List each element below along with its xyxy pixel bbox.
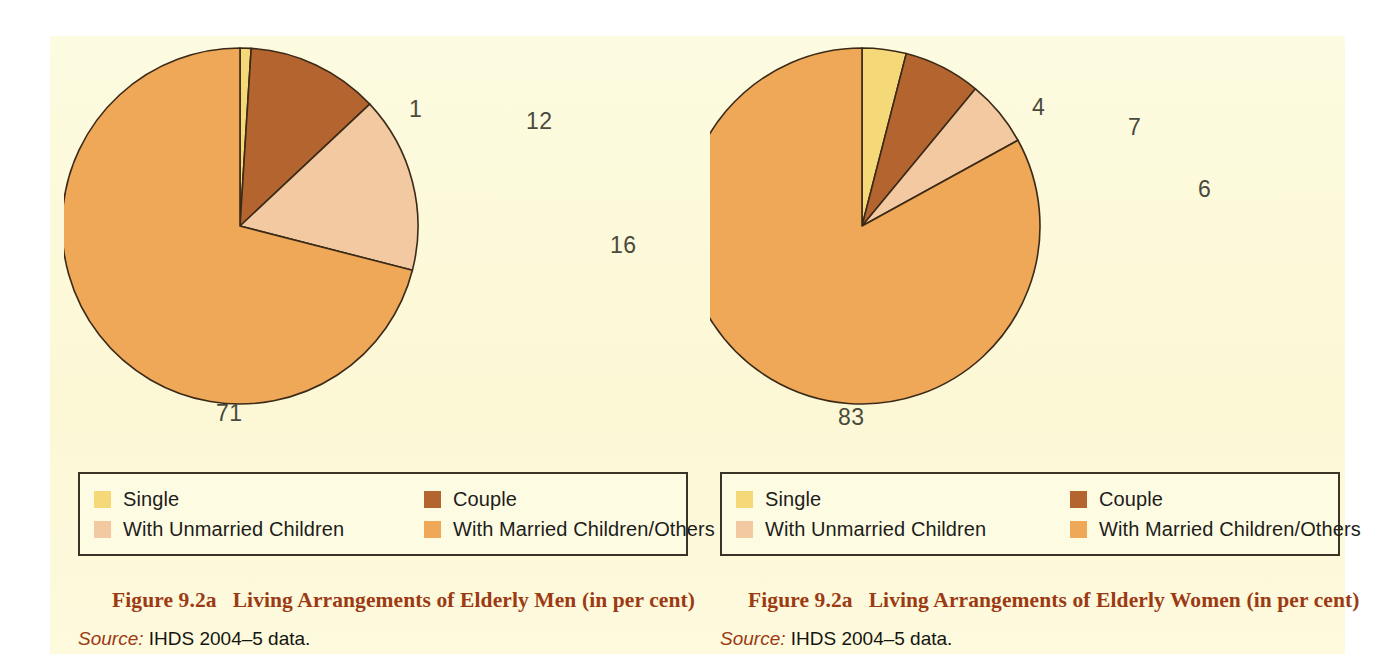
source-label-men: Source:: [78, 628, 143, 649]
legend-swatch-with-married-children-others-icon: [1070, 521, 1087, 538]
legend-label-with-married-children-others: With Married Children/Others: [453, 518, 715, 541]
pie-chart-women: 4 7 6 83: [710, 36, 1340, 456]
legend-label-single: Single: [765, 488, 821, 511]
figure-elderly-men: 1 12 16 71 Single Couple With Unmarried …: [64, 36, 694, 654]
legend-swatch-with-unmarried-children-icon: [736, 521, 753, 538]
figure-page-panel: 1 12 16 71 Single Couple With Unmarried …: [50, 36, 1345, 654]
pie-slice-label-married-children-others: 83: [838, 404, 865, 431]
source-text-men: IHDS 2004–5 data.: [149, 628, 311, 649]
legend-item-with-married-children-others[interactable]: With Married Children/Others: [424, 518, 715, 541]
legend-item-with-married-children-others[interactable]: With Married Children/Others: [1070, 518, 1361, 541]
figure-caption-title-men: Living Arrangements of Elderly Men (in p…: [233, 588, 695, 612]
legend-women: Single Couple With Unmarried Children Wi…: [720, 472, 1340, 556]
figure-caption-women: Figure 9.2aLiving Arrangements of Elderl…: [748, 588, 1360, 613]
pie-slice-label-married-children-others: 71: [216, 400, 243, 427]
legend-swatch-with-unmarried-children-icon: [94, 521, 111, 538]
legend-swatch-couple-icon: [1070, 491, 1087, 508]
source-label-women: Source:: [720, 628, 785, 649]
legend-item-couple[interactable]: Couple: [424, 488, 715, 511]
pie-slice-label-unmarried-children: 6: [1198, 176, 1211, 203]
source-text-women: IHDS 2004–5 data.: [791, 628, 953, 649]
pie-slice-label-single: 1: [409, 96, 422, 123]
legend-swatch-single-icon: [94, 491, 111, 508]
legend-label-with-married-children-others: With Married Children/Others: [1099, 518, 1361, 541]
legend-men: Single Couple With Unmarried Children Wi…: [78, 472, 688, 556]
legend-item-couple[interactable]: Couple: [1070, 488, 1361, 511]
legend-item-single[interactable]: Single: [94, 488, 424, 511]
figure-caption-number-men: Figure 9.2a: [112, 588, 217, 612]
legend-swatch-with-married-children-others-icon: [424, 521, 441, 538]
legend-swatch-single-icon: [736, 491, 753, 508]
figure-caption-number-women: Figure 9.2a: [748, 588, 853, 612]
pie-slice-label-single: 4: [1032, 94, 1045, 121]
legend-item-with-unmarried-children[interactable]: With Unmarried Children: [94, 518, 424, 541]
legend-label-single: Single: [123, 488, 179, 511]
legend-item-single[interactable]: Single: [736, 488, 1070, 511]
pie-chart-men: 1 12 16 71: [64, 36, 694, 456]
figure-caption-men: Figure 9.2aLiving Arrangements of Elderl…: [112, 588, 695, 613]
pie-chart-women-svg: [710, 36, 1340, 456]
figure-elderly-women: 4 7 6 83 Single Couple With Unmarried Ch…: [710, 36, 1340, 654]
legend-item-with-unmarried-children[interactable]: With Unmarried Children: [736, 518, 1070, 541]
pie-chart-men-svg: [64, 36, 694, 456]
legend-swatch-couple-icon: [424, 491, 441, 508]
legend-label-with-unmarried-children: With Unmarried Children: [123, 518, 344, 541]
pie-slice-label-couple: 12: [526, 108, 553, 135]
pie-slice-label-couple: 7: [1128, 114, 1141, 141]
legend-label-with-unmarried-children: With Unmarried Children: [765, 518, 986, 541]
legend-label-couple: Couple: [1099, 488, 1163, 511]
legend-label-couple: Couple: [453, 488, 517, 511]
figure-caption-title-women: Living Arrangements of Elderly Women (in…: [869, 588, 1360, 612]
figure-source-men: Source: IHDS 2004–5 data.: [78, 628, 310, 650]
pie-slice-label-unmarried-children: 16: [610, 232, 637, 259]
figure-source-women: Source: IHDS 2004–5 data.: [720, 628, 952, 650]
